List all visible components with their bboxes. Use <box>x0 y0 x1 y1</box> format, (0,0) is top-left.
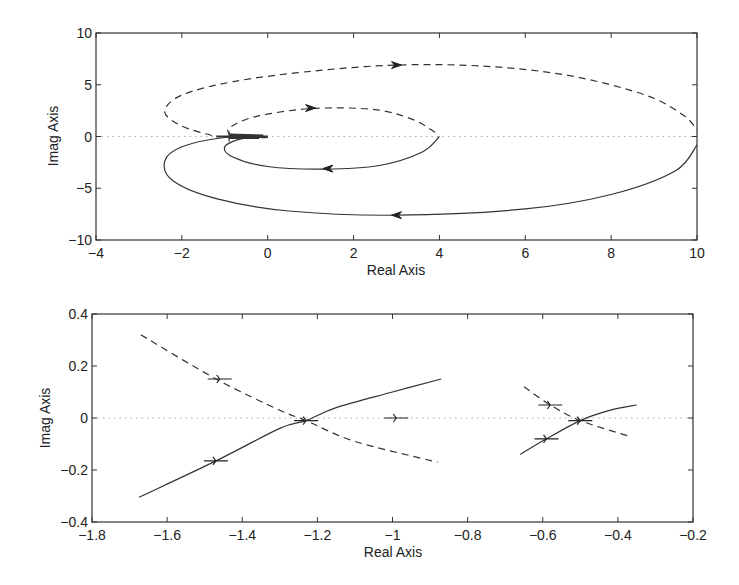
locus-inner-solid <box>224 137 439 170</box>
bottom-y-axis-label: Imag Axis <box>37 388 53 449</box>
top-x-axis-label: Real Axis <box>367 262 425 278</box>
x-tick-label: −0.6 <box>529 527 557 543</box>
y-tick-label: 0 <box>84 129 92 145</box>
x-tick-label: 8 <box>607 245 615 261</box>
top-series <box>164 62 697 219</box>
plot-canvas: −4−20246810−10−50510 Real Axis Imag Axis… <box>0 0 739 585</box>
y-tick-label: −10 <box>68 232 92 248</box>
x-tick-label: −2 <box>174 245 190 261</box>
x-tick-label: 4 <box>436 245 444 261</box>
gain-marker-icon <box>204 457 228 465</box>
y-tick-label: −0.2 <box>60 462 88 478</box>
locus-right-dashed <box>524 387 629 436</box>
locus-left-dashed <box>141 335 438 462</box>
top-y-axis-label: Imag Axis <box>45 106 61 167</box>
x-tick-label: 6 <box>521 245 529 261</box>
locus-inner-dashed <box>228 108 435 136</box>
gain-marker-icon <box>384 414 408 422</box>
x-tick-label: −0.8 <box>454 527 482 543</box>
y-tick-label: −0.4 <box>60 514 88 530</box>
y-tick-label: 0 <box>80 410 88 426</box>
locus-left-solid <box>139 379 441 497</box>
bottom-panel: −1.8−1.6−1.4−1.2−1−0.8−0.6−0.4−0.2−0.4−0… <box>37 306 707 560</box>
x-tick-label: −0.2 <box>679 527 707 543</box>
x-tick-label: 0 <box>264 245 272 261</box>
direction-arrow-icon <box>306 105 316 112</box>
gain-marker-icon <box>208 375 232 383</box>
locus-outer-solid <box>164 137 697 215</box>
y-tick-label: −5 <box>76 180 92 196</box>
gain-marker-icon <box>535 435 559 443</box>
gain-marker-icon <box>538 401 562 409</box>
figure: −4−20246810−10−50510 Real Axis Imag Axis… <box>0 0 739 585</box>
bottom-series <box>139 335 637 498</box>
locus-outer-dashed <box>165 65 697 136</box>
origin-cluster <box>216 135 268 139</box>
x-tick-label: −1 <box>385 527 401 543</box>
y-tick-label: 5 <box>84 77 92 93</box>
x-tick-label: −1.6 <box>153 527 181 543</box>
y-tick-label: 10 <box>76 25 92 41</box>
bottom-ticks: −1.8−1.6−1.4−1.2−1−0.8−0.6−0.4−0.2−0.4−0… <box>60 306 707 543</box>
x-tick-label: 10 <box>689 245 705 261</box>
top-ticks: −4−20246810−10−50510 <box>68 25 705 261</box>
y-tick-label: 0.2 <box>69 358 89 374</box>
x-tick-label: −1.2 <box>304 527 332 543</box>
y-tick-label: 0.4 <box>69 306 89 322</box>
x-tick-label: 2 <box>350 245 358 261</box>
locus-right-solid <box>520 405 637 454</box>
x-tick-label: −0.4 <box>604 527 632 543</box>
top-panel: −4−20246810−10−50510 Real Axis Imag Axis <box>45 25 705 278</box>
bottom-x-axis-label: Real Axis <box>364 544 422 560</box>
x-tick-label: −1.4 <box>228 527 256 543</box>
